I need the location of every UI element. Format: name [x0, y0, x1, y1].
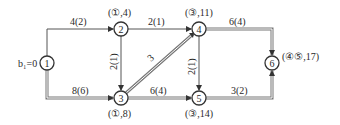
node-4-mark: (③,11) — [185, 7, 213, 19]
node-4-label: 4 — [197, 24, 202, 35]
network-diagram: 4(2) 8(6) 2(1) 2(1) 3 6(4) 2(1) 6(4) — [0, 0, 340, 125]
edge-label-1-2: 4(2) — [70, 16, 87, 28]
node-2: 2 — [114, 22, 128, 36]
edge-label-4-5: 2(1) — [186, 58, 198, 75]
node-6-label: 6 — [270, 58, 275, 69]
node-5-mark: (③,14) — [185, 108, 213, 120]
edge-label-3-5: 6(4) — [150, 85, 167, 97]
node-4: 4 — [192, 22, 206, 36]
node-5: 5 — [192, 91, 206, 105]
node-5-label: 5 — [197, 93, 202, 104]
node-3: 3 — [114, 91, 128, 105]
edge-label-1-3: 8(6) — [72, 85, 89, 97]
edge-label-2-4: 2(1) — [148, 16, 165, 28]
node-3-mark: (①,8) — [108, 108, 131, 120]
node-6: 6 — [265, 56, 279, 70]
edge-label-4-6: 6(4) — [229, 16, 246, 28]
edge-label-5-6: 3(2) — [231, 85, 248, 97]
edge-4-6 — [206, 29, 275, 56]
edge-1-2 — [47, 29, 113, 56]
node-2-label: 2 — [119, 24, 124, 35]
node-1: 1 — [40, 56, 54, 70]
node-3-label: 3 — [119, 93, 124, 104]
start-label: b₁=0 — [18, 58, 37, 69]
edge-label-2-3: 2(1) — [108, 53, 120, 70]
node-2-mark: (①,4) — [108, 7, 131, 19]
edge-label-3-4: 3 — [145, 52, 156, 64]
node-1-label: 1 — [45, 58, 50, 69]
edge-3-4 — [126, 33, 194, 93]
node-6-mark: (④⑤,17) — [282, 51, 319, 63]
